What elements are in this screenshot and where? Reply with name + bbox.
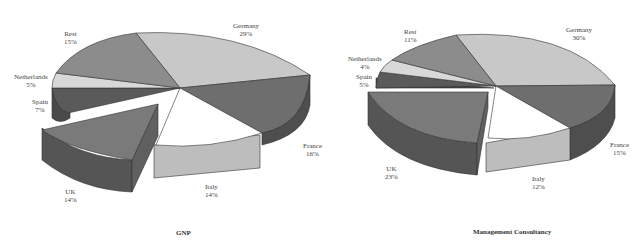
label-rest: Rest11% <box>404 28 417 44</box>
label-netherlands: Netherlands5% <box>14 73 48 89</box>
label-netherlands: Netherlands4% <box>348 55 382 71</box>
label-uk: UK23% <box>385 165 398 181</box>
gnp-pie-chart: Germany29% Rest15% Netherlands5% Spain7%… <box>0 0 319 249</box>
chart-title-management-consultancy: Management Consultancy <box>473 228 551 236</box>
label-spain: Spain5% <box>356 73 372 89</box>
label-uk: UK14% <box>64 188 77 204</box>
label-france: France15% <box>610 141 629 157</box>
consultancy-pie-chart: Germany30% Rest11% Netherlands4% Spain5%… <box>318 0 637 249</box>
label-italy: Italy14% <box>205 183 218 199</box>
chart-title-gnp: GNP <box>176 229 191 237</box>
label-germany: Germany30% <box>566 26 592 42</box>
gnp-pie-graphic <box>0 0 319 249</box>
label-spain: Spain7% <box>32 98 48 114</box>
label-italy: Italy12% <box>532 175 545 191</box>
label-rest: Rest15% <box>64 30 77 46</box>
label-germany: Germany29% <box>233 22 259 38</box>
